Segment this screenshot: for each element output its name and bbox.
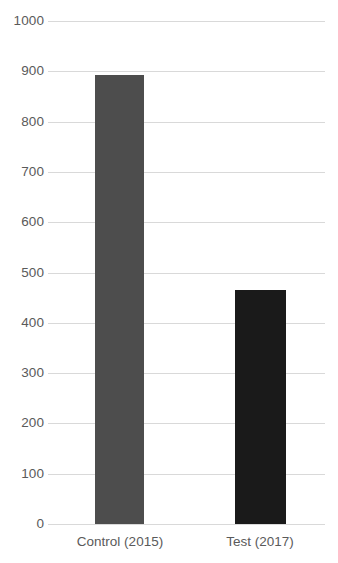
- y-axis-tick-labels: 0 100 200 300 400 500 600 700 800 900 10…: [0, 21, 44, 524]
- y-tick-label-100: 100: [2, 467, 44, 481]
- bar-control-2015: [95, 75, 144, 524]
- y-tick-label-600: 600: [2, 215, 44, 229]
- gridline-600: [48, 222, 325, 223]
- gridline-1000: [48, 21, 325, 22]
- plot-area: [48, 21, 325, 524]
- gridline-900: [48, 71, 325, 72]
- y-tick-label-0: 0: [2, 517, 44, 531]
- gridline-800: [48, 122, 325, 123]
- x-category-label-test-2017: Test (2017): [226, 535, 294, 549]
- y-tick-label-400: 400: [2, 316, 44, 330]
- y-tick-label-200: 200: [2, 417, 44, 431]
- gridline-0: [48, 524, 325, 525]
- y-tick-label-300: 300: [2, 366, 44, 380]
- y-tick-label-1000: 1000: [2, 14, 44, 28]
- gridline-700: [48, 172, 325, 173]
- bar-chart: 0 100 200 300 400 500 600 700 800 900 10…: [0, 0, 338, 563]
- bar-test-2017: [235, 290, 286, 524]
- y-tick-label-900: 900: [2, 65, 44, 79]
- x-category-label-control-2015: Control (2015): [77, 535, 163, 549]
- y-tick-label-700: 700: [2, 165, 44, 179]
- y-tick-label-800: 800: [2, 115, 44, 129]
- y-tick-label-500: 500: [2, 266, 44, 280]
- gridline-500: [48, 273, 325, 274]
